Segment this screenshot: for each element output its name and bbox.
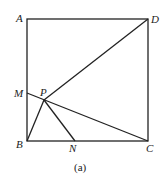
segment-pd [44,19,148,100]
label-b: B [16,138,23,150]
label-n: N [68,142,77,154]
caption: (a) [74,161,87,174]
geometry-diagram: A D M P B N C (a) [0,0,164,181]
label-m: M [13,87,24,99]
segment-pb [27,100,44,141]
segment-mc [27,93,148,141]
label-a: A [15,12,23,24]
label-c: C [146,142,154,154]
label-p: P [39,86,47,98]
square-abcd [27,19,148,141]
label-d: D [150,13,159,25]
